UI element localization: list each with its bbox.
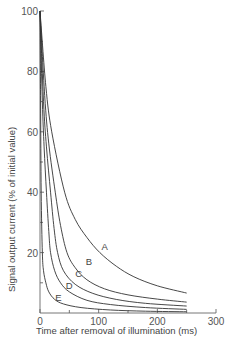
y-tick-label: 80 <box>27 66 39 77</box>
curve-label-e: E <box>55 292 61 303</box>
curve-label-b: B <box>86 256 92 267</box>
x-tick-label: 300 <box>208 316 225 327</box>
curve-d <box>40 11 187 309</box>
y-axis-label: Signal output current (% of initial valu… <box>6 127 17 292</box>
curve-a <box>40 11 187 293</box>
y-tick-label: 20 <box>27 248 39 259</box>
curve-b <box>40 11 187 302</box>
curve-label-a: A <box>102 241 109 252</box>
curve-c <box>40 11 187 306</box>
x-axis-label: Time after removal of illumination (ms) <box>36 325 197 336</box>
curve-label-d: D <box>66 280 73 291</box>
decay-curves <box>40 11 187 312</box>
axes <box>40 11 216 313</box>
y-tick-label: 40 <box>27 187 39 198</box>
curve-label-c: C <box>75 268 82 279</box>
decay-line-chart: 010020030020406080100 ABCDE Time after r… <box>0 0 236 344</box>
y-tick-label: 100 <box>21 6 38 17</box>
curve-labels: ABCDE <box>55 241 108 303</box>
y-tick-label: 60 <box>27 127 39 138</box>
